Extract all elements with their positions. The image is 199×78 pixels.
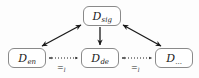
edge-sig-to-dots: [123, 25, 161, 46]
edge-label-de-dots: =l: [131, 64, 139, 72]
node-d-dots[interactable]: D...: [155, 48, 193, 68]
node-d-sig[interactable]: Dsig: [83, 6, 121, 26]
diagram-canvas: D_en (solid, double headed, diagonal dow…: [0, 0, 199, 78]
node-d-dots-label: D...: [166, 53, 182, 64]
node-d-en-label: Den: [18, 53, 35, 64]
edge-sig-to-en: [42, 25, 81, 46]
node-d-en[interactable]: Den: [8, 48, 46, 68]
edge-label-en-de: =l: [57, 64, 65, 72]
node-d-de-label: Dde: [91, 53, 108, 64]
node-d-sig-label: Dsig: [92, 11, 111, 22]
node-d-de[interactable]: Dde: [81, 48, 119, 68]
